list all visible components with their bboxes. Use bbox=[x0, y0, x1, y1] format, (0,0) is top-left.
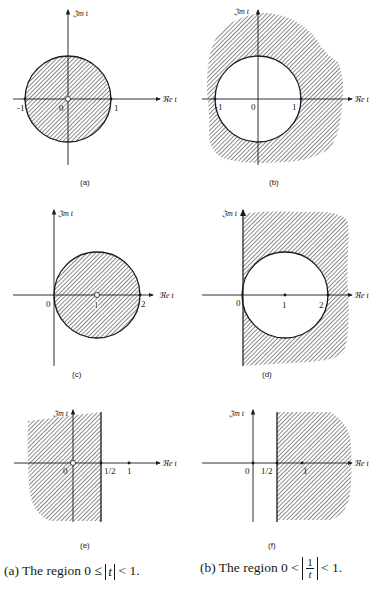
panel-f: 0 1/2 1 𝔍m t ℜe t (f) bbox=[202, 409, 370, 550]
panel-caption: (b) bbox=[269, 178, 279, 187]
right-half-plane-region bbox=[277, 412, 352, 520]
tick-label: 0 bbox=[46, 299, 51, 309]
tick-label: 1/2 bbox=[261, 466, 273, 476]
real-axis-label: ℜe t bbox=[354, 95, 370, 104]
tick-label: 1 bbox=[127, 466, 132, 476]
imaginary-axis-label: 𝔍m t bbox=[52, 409, 69, 418]
panel-caption: (d) bbox=[262, 370, 272, 379]
panel-c: 0 1 1 2 𝔍m t ℜe t (c) bbox=[13, 209, 175, 379]
tick-label: -1 bbox=[215, 102, 223, 112]
caption-left-suffix: < 1. bbox=[115, 563, 140, 578]
caption-left-prefix: (a) The region 0 ≤ bbox=[4, 563, 105, 578]
tick-label: -1 bbox=[17, 103, 25, 113]
tick-label: 0 bbox=[251, 102, 256, 112]
panel-caption: (c) bbox=[72, 370, 82, 379]
imaginary-axis-label: 𝔍m t bbox=[57, 209, 74, 218]
tick-label: 2 bbox=[319, 300, 324, 310]
abs-value: t bbox=[105, 564, 115, 580]
caption-left: (a) The region 0 ≤ t < 1. bbox=[4, 563, 140, 580]
origin-point bbox=[71, 461, 76, 466]
panel-b: -1 0 1 𝔍m t ℜe t (b) bbox=[202, 7, 370, 187]
tick-label: 0 bbox=[245, 466, 250, 476]
panel-caption: (a) bbox=[80, 178, 90, 187]
fraction: 1t bbox=[306, 557, 314, 580]
imaginary-axis-label: 𝔍m t bbox=[72, 9, 89, 18]
tick-label: 1 bbox=[303, 466, 308, 476]
real-axis-label: ℜe t bbox=[162, 95, 178, 104]
tick-label: 1 bbox=[292, 102, 297, 112]
panel-d: 0 1 2 𝔍m t ℜe t (d) bbox=[202, 209, 370, 379]
tick-label: 0 bbox=[236, 298, 241, 308]
caption-right-prefix: (b) The region 0 < bbox=[200, 560, 302, 575]
tick-label: 0 bbox=[63, 466, 68, 476]
complex-plane-figure: -1 0 1 𝔍m t ℜe t (a) -1 0 1 𝔍m t ℜe t (b… bbox=[0, 0, 373, 591]
center-point bbox=[95, 293, 100, 298]
panel-a: -1 0 1 𝔍m t ℜe t (a) bbox=[13, 9, 178, 187]
real-axis-label: ℜe t bbox=[354, 459, 370, 468]
abs-value: 1t bbox=[302, 557, 318, 580]
tick-label: 1 bbox=[114, 103, 119, 113]
imaginary-axis-label: 𝔍m t bbox=[221, 209, 238, 218]
imaginary-axis-label: 𝔍m t bbox=[233, 7, 250, 16]
tick-label: 1/2 bbox=[104, 466, 116, 476]
real-axis-label: ℜe t bbox=[162, 459, 178, 468]
tick-label: 1 bbox=[94, 300, 99, 310]
real-axis-label: ℜe t bbox=[159, 291, 175, 300]
panel-e: 0 1/2 1 𝔍m t ℜe t (e) bbox=[14, 409, 178, 550]
panel-caption: (e) bbox=[80, 541, 90, 550]
imaginary-axis-label: 𝔍m t bbox=[228, 409, 245, 418]
real-axis-label: ℜe t bbox=[354, 291, 370, 300]
tick-label: 0 bbox=[59, 103, 64, 113]
tick-label: 1 bbox=[282, 300, 287, 310]
caption-right: (b) The region 0 < 1t < 1. bbox=[200, 557, 342, 580]
tick-label: 2 bbox=[141, 299, 146, 309]
panel-caption: (f) bbox=[268, 541, 276, 550]
origin-point bbox=[66, 97, 71, 102]
caption-right-suffix: < 1. bbox=[318, 560, 343, 575]
